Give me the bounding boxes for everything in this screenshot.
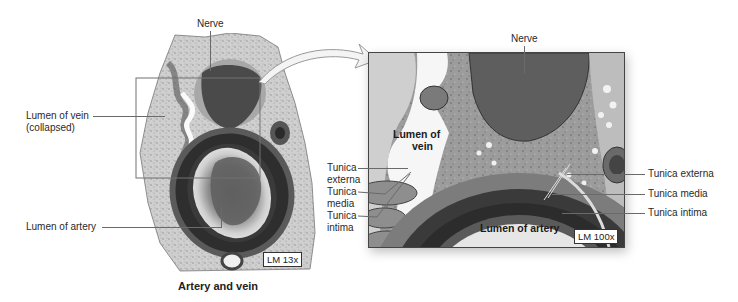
- vein-tunica-intima-sublabel: intima: [327, 222, 354, 234]
- artery-tunica-intima-leader-line: [562, 213, 645, 214]
- artery-tunica-externa-label: Tunica externa: [648, 168, 714, 180]
- left-lumen-artery-label: Lumen of artery: [26, 221, 96, 233]
- zoom-arrow-icon: [255, 42, 380, 87]
- right-lumen-artery-label: Lumen of artery: [480, 222, 559, 234]
- left-nerve-label: Nerve: [197, 18, 224, 30]
- left-magnification-badge: LM 13x: [263, 252, 302, 267]
- left-lumen-vein-sublabel: (collapsed): [26, 122, 75, 134]
- artery-tunica-media-label: Tunica media: [648, 188, 708, 200]
- left-lumen-vein-label: Lumen of vein: [26, 110, 89, 122]
- left-lumen-artery-leader-line: [102, 227, 222, 228]
- vein-tunica-media-sublabel: media: [327, 198, 354, 210]
- vein-tunica-intima-label: Tunica: [327, 210, 357, 222]
- left-lumen-vein-leader-line: [93, 116, 165, 117]
- artery-wall-pointer-lines: [540, 160, 580, 202]
- right-lumen-vein-sublabel: vein: [412, 140, 433, 152]
- left-figure-caption: Artery and vein: [178, 280, 258, 292]
- left-nerve-leader-line: [210, 31, 211, 71]
- right-magnification-badge: LM 100x: [574, 229, 618, 244]
- vein-tunica-externa-label: Tunica: [327, 162, 357, 174]
- left-lumen-artery-leader-vertical: [221, 206, 222, 228]
- right-lumen-vein-label: Lumen of: [393, 128, 440, 140]
- vein-tunica-leader-lines: [355, 168, 415, 220]
- artery-tunica-intima-label: Tunica intima: [648, 207, 707, 219]
- right-nerve-label: Nerve: [511, 33, 538, 45]
- vein-tunica-media-label: Tunica: [327, 186, 357, 198]
- right-nerve-leader-line: [524, 46, 525, 74]
